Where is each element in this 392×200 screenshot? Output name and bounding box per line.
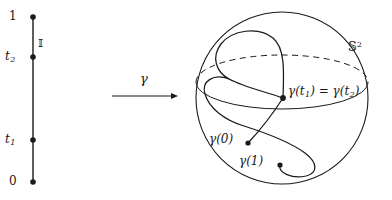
interval-tick-dot-one bbox=[30, 14, 36, 20]
gamma-curve-to-start bbox=[249, 98, 283, 142]
interval-tick-dot-t2 bbox=[30, 54, 36, 60]
interval-group bbox=[30, 14, 36, 185]
gamma-curve-upper-loop bbox=[216, 31, 284, 98]
map-arrow-label: γ bbox=[140, 72, 148, 85]
gamma-end-label: γ(1) bbox=[239, 155, 263, 167]
interval-label-t2: t2 bbox=[5, 50, 15, 63]
interval-axis-label: 𝕀 bbox=[38, 38, 43, 49]
sphere-label-base: 𝕊 bbox=[348, 40, 357, 54]
map-arrow-head bbox=[171, 93, 178, 99]
interval-label-one: 1 bbox=[9, 10, 17, 22]
gamma-crossing-arg2: (t bbox=[340, 84, 350, 98]
figure-interval-to-sphere: 1 t2 t1 0 𝕀 γ 𝕊2 γ(t1) = γ(t2) γ(0) γ(1) bbox=[0, 0, 392, 200]
gamma-end-dot bbox=[277, 162, 282, 167]
gamma-start-arg: (0) bbox=[216, 132, 233, 146]
interval-label-t1-sub: 1 bbox=[10, 137, 15, 147]
interval-tick-dot-t1 bbox=[30, 137, 36, 143]
gamma-end-arg: (1) bbox=[246, 154, 263, 168]
gamma-start-dot bbox=[245, 140, 250, 145]
gamma-crossing-label: γ(t1) = γ(t2) bbox=[288, 85, 359, 98]
figure-vector-graphics bbox=[0, 0, 392, 200]
interval-tick-dot-zero bbox=[30, 179, 36, 185]
sphere-label-exponent: 2 bbox=[357, 39, 362, 49]
gamma-crossing-arg: (t bbox=[295, 84, 305, 98]
sphere-label: 𝕊2 bbox=[348, 40, 362, 53]
interval-label-t1: t1 bbox=[5, 133, 15, 146]
gamma-crossing-dot bbox=[280, 95, 286, 101]
gamma-start-label: γ(0) bbox=[209, 133, 233, 145]
gamma-crossing-base2: γ bbox=[333, 84, 340, 98]
gamma-crossing-close: ) bbox=[355, 84, 360, 98]
map-arrow-group bbox=[112, 93, 178, 99]
gamma-crossing-eq: ) = bbox=[310, 84, 332, 98]
interval-label-t2-sub: 2 bbox=[10, 54, 15, 64]
interval-label-zero: 0 bbox=[9, 175, 17, 187]
